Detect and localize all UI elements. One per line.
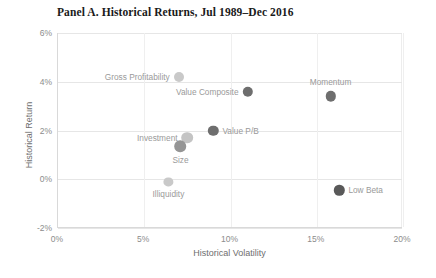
chart-title: Panel A. Historical Returns, Jul 1989–De… (57, 6, 294, 18)
data-point-label: Value P/B (222, 126, 258, 136)
y-axis-label: Historical Return (24, 75, 34, 195)
data-point[interactable] (164, 177, 173, 186)
gridline-vertical (403, 33, 404, 227)
x-tick-label: 0% (51, 234, 63, 244)
data-point[interactable] (208, 125, 218, 135)
data-point[interactable] (334, 185, 344, 195)
scatter-chart: Panel A. Historical Returns, Jul 1989–De… (0, 0, 436, 278)
x-tick-label: 5% (137, 234, 149, 244)
data-point[interactable] (325, 91, 335, 101)
data-point[interactable] (243, 86, 253, 96)
x-axis-label: Historical Volatility (57, 248, 402, 258)
x-tick-label: 10% (221, 234, 238, 244)
data-point-label: Low Beta (348, 185, 383, 195)
data-point-label: Investment (137, 133, 178, 143)
data-point-label: Illiquidity (152, 189, 184, 199)
y-tick-label: -2% (6, 223, 52, 233)
gridline-vertical (144, 33, 145, 227)
data-point-label: Size (172, 155, 188, 165)
x-tick-label: 20% (393, 234, 410, 244)
data-point[interactable] (174, 72, 184, 82)
gridline-vertical (317, 33, 318, 227)
data-point-label: Momentum (310, 77, 352, 87)
x-axis-ticks: 0%5%10%15%20% (57, 228, 402, 248)
plot-area: Gross ProfitabilityValue CompositeMoment… (57, 33, 402, 228)
data-point-label: Gross Profitability (105, 72, 170, 82)
data-point-label: Value Composite (176, 87, 239, 97)
x-tick-label: 15% (307, 234, 324, 244)
y-tick-label: 6% (6, 28, 52, 38)
data-point[interactable] (175, 141, 187, 153)
